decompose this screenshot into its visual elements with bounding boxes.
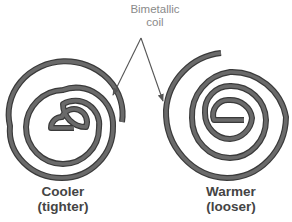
callout-line-1: Bimetallic [120, 3, 190, 16]
warmer-detail: (looser) [200, 199, 262, 214]
cooler-detail: (tighter) [27, 199, 99, 214]
cooler-caption: Cooler (tighter) [27, 184, 99, 214]
bimetallic-coil-diagram: Bimetallic coil Cooler (tighter) Warmer … [0, 0, 292, 222]
bimetallic-coil-callout: Bimetallic coil [120, 3, 190, 29]
callout-line-2: coil [120, 16, 190, 29]
arrow-to-warmer-coil-icon [141, 38, 163, 101]
cooler-label: Cooler [27, 184, 99, 199]
arrow-to-cooler-coil-icon [113, 38, 141, 95]
cooler-spiral-icon [9, 61, 123, 178]
warmer-label: Warmer [200, 184, 262, 199]
warmer-spiral-icon [166, 53, 286, 178]
warmer-caption: Warmer (looser) [200, 184, 262, 214]
